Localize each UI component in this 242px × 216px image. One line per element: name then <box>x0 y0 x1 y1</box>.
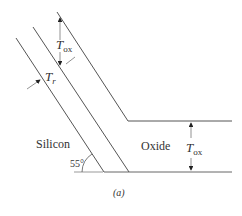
oxidation-diagram: Tox Tr Tox Silicon Oxide 55° (a) <box>0 0 242 216</box>
tr-label: Tr <box>45 69 56 86</box>
oxide-label: Oxide <box>141 139 170 153</box>
tox-right-label: Tox <box>186 140 203 157</box>
oxide-surface <box>57 12 232 121</box>
angle-label: 55° <box>70 158 84 169</box>
tr-arrow <box>27 80 40 89</box>
figure-caption: (a) <box>113 187 125 199</box>
tox-top-label: Tox <box>56 37 73 54</box>
silicon-label: Silicon <box>36 137 70 151</box>
tox-top-tick <box>66 57 75 64</box>
